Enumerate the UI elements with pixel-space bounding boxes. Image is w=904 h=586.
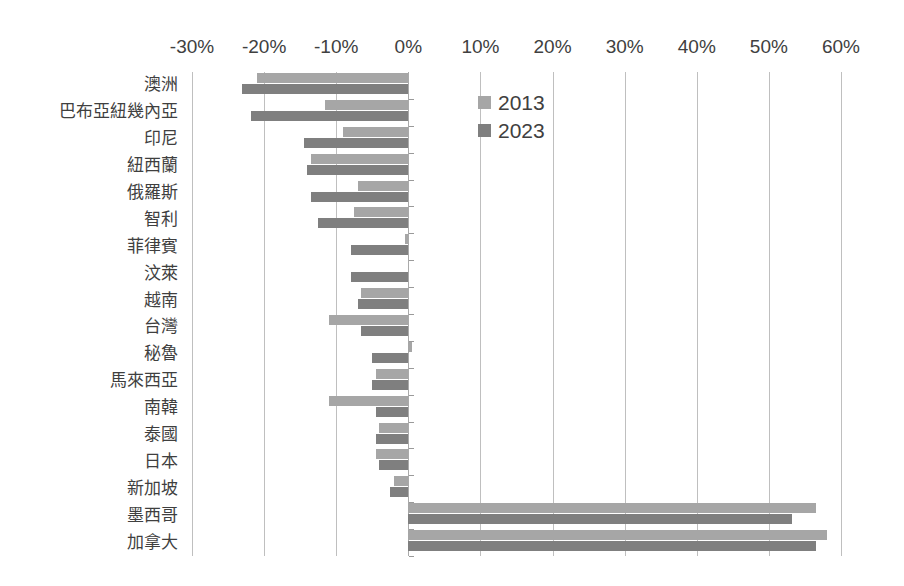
y-category-label: 加拿大: [127, 534, 178, 551]
bar-2013: [358, 181, 408, 191]
bar-2023: [372, 380, 408, 390]
legend-swatch-icon: [478, 124, 491, 137]
bar-row: [192, 314, 841, 341]
bar-2023: [379, 460, 408, 470]
chart-legend: 20132023: [478, 92, 545, 141]
y-category-label: 越南: [144, 292, 178, 309]
bar-chart: -30%-20%-10%0%10%20%30%40%50%60% 澳洲巴布亞紐幾…: [0, 0, 904, 586]
bar-2013: [329, 396, 408, 406]
bar-rows: [192, 72, 841, 556]
legend-label: 2013: [498, 92, 545, 113]
legend-label: 2023: [498, 120, 545, 141]
bar-2013: [405, 234, 409, 244]
bar-2023: [390, 487, 408, 497]
y-category-label: 菲律賓: [127, 238, 178, 255]
bar-2013: [379, 423, 408, 433]
bar-row: [192, 368, 841, 395]
bar-2023: [376, 407, 408, 417]
bar-2013: [343, 127, 408, 137]
bar-row: [192, 529, 841, 556]
y-axis-category-labels: 澳洲巴布亞紐幾內亞印尼紐西蘭俄羅斯智利菲律賓汶萊越南台灣秘魯馬來西亞南韓泰國日本…: [0, 72, 186, 556]
y-category-label: 南韓: [144, 399, 178, 416]
y-category-label: 紐西蘭: [127, 157, 178, 174]
bar-2023: [242, 84, 408, 94]
bar-2013: [394, 476, 408, 486]
y-category-label: 澳洲: [144, 76, 178, 93]
bar-2023: [304, 138, 409, 148]
bar-2013: [329, 315, 408, 325]
x-tick-label: 60%: [822, 36, 860, 58]
x-axis-tick-labels: -30%-20%-10%0%10%20%30%40%50%60%: [0, 36, 904, 62]
bar-row: [192, 502, 841, 529]
bar-2023: [408, 514, 792, 524]
bar-row: [192, 153, 841, 180]
y-category-label: 新加坡: [127, 480, 178, 497]
bar-row: [192, 448, 841, 475]
x-tick-label: 40%: [678, 36, 716, 58]
x-tick-label: 0%: [395, 36, 422, 58]
bar-2013: [311, 154, 408, 164]
bar-2013: [408, 342, 412, 352]
y-category-label: 墨西哥: [127, 507, 178, 524]
bar-2023: [251, 111, 408, 121]
bar-row: [192, 475, 841, 502]
y-category-label: 台灣: [144, 318, 178, 335]
bar-2023: [376, 434, 408, 444]
bar-2013: [257, 73, 408, 83]
x-tick-label: 50%: [750, 36, 788, 58]
bar-2023: [358, 299, 408, 309]
gridline: [841, 72, 842, 556]
bar-2013: [408, 530, 826, 540]
bar-2013: [376, 369, 408, 379]
bar-row: [192, 341, 841, 368]
bar-2013: [361, 288, 408, 298]
x-tick-label: -20%: [242, 36, 286, 58]
bar-2023: [318, 218, 408, 228]
bar-2023: [307, 165, 408, 175]
bar-row: [192, 180, 841, 207]
x-tick-label: 30%: [606, 36, 644, 58]
y-category-label: 汶萊: [144, 265, 178, 282]
legend-swatch-icon: [478, 96, 491, 109]
bar-2013: [376, 449, 408, 459]
x-tick-label: 20%: [534, 36, 572, 58]
bar-2023: [311, 192, 408, 202]
y-category-label: 巴布亞紐幾內亞: [59, 103, 178, 120]
bar-2023: [351, 245, 409, 255]
y-category-label: 印尼: [144, 130, 178, 147]
legend-item[interactable]: 2013: [478, 92, 545, 113]
bar-row: [192, 287, 841, 314]
plot-area: [192, 72, 841, 556]
bar-2023: [408, 541, 815, 551]
y-category-label: 日本: [144, 453, 178, 470]
bar-row: [192, 206, 841, 233]
axis-tick-mark: [409, 556, 414, 557]
bar-row: [192, 395, 841, 422]
bar-row: [192, 260, 841, 287]
x-tick-label: 10%: [461, 36, 499, 58]
bar-row: [192, 233, 841, 260]
y-category-label: 智利: [144, 211, 178, 228]
y-category-label: 俄羅斯: [127, 184, 178, 201]
legend-item[interactable]: 2023: [478, 120, 545, 141]
bar-2023: [372, 353, 408, 363]
y-category-label: 泰國: [144, 426, 178, 443]
x-tick-label: -10%: [314, 36, 358, 58]
bar-2013: [325, 100, 408, 110]
bar-2023: [351, 272, 409, 282]
y-category-label: 秘魯: [144, 345, 178, 362]
bar-2013: [408, 503, 815, 513]
bar-row: [192, 422, 841, 449]
y-category-label: 馬來西亞: [110, 372, 178, 389]
bar-2023: [361, 326, 408, 336]
x-tick-label: -30%: [170, 36, 214, 58]
bar-2013: [354, 207, 408, 217]
